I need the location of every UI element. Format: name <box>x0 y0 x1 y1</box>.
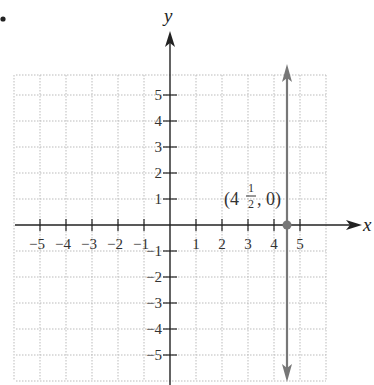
y-tick-label: −5 <box>146 347 162 363</box>
x-tick-label: 4 <box>270 236 278 252</box>
x-tick-label: 5 <box>296 236 304 252</box>
point-label-numerator: 1 <box>248 181 254 195</box>
y-tick-label: 5 <box>155 87 163 103</box>
x-tick-label: −5 <box>29 236 45 252</box>
x-tick-label: 1 <box>192 236 200 252</box>
y-tick-label: −3 <box>146 295 162 311</box>
y-axis-label: y <box>162 5 173 26</box>
x-tick-label: 2 <box>218 236 226 252</box>
y-tick-label: 3 <box>155 139 163 155</box>
point-label-open: (4 <box>224 189 239 210</box>
x-tick-label: −4 <box>55 236 71 252</box>
vertical-line-series <box>282 64 292 382</box>
x-tick-label: 3 <box>244 236 252 252</box>
x-axis-label: x <box>362 214 372 235</box>
y-tick-label: 2 <box>155 165 163 181</box>
y-tick-label: 1 <box>155 191 163 207</box>
coordinate-plane: −5−4−3−2−11234554321−1−2−3−4−5 x y (4 1 … <box>0 0 374 385</box>
point-label: (4 1 2 , 0) <box>224 181 281 211</box>
y-tick-label: −1 <box>146 243 162 259</box>
x-intercept-point <box>283 221 292 230</box>
x-tick-label: −2 <box>107 236 123 252</box>
y-tick-label: −2 <box>146 269 162 285</box>
y-tick-label: 4 <box>155 113 163 129</box>
axes <box>15 31 362 385</box>
point-label-close: , 0) <box>257 189 281 210</box>
bullet-marker <box>0 16 5 21</box>
point-label-denominator: 2 <box>248 197 254 211</box>
y-tick-label: −4 <box>146 321 162 337</box>
x-tick-label: −3 <box>81 236 97 252</box>
